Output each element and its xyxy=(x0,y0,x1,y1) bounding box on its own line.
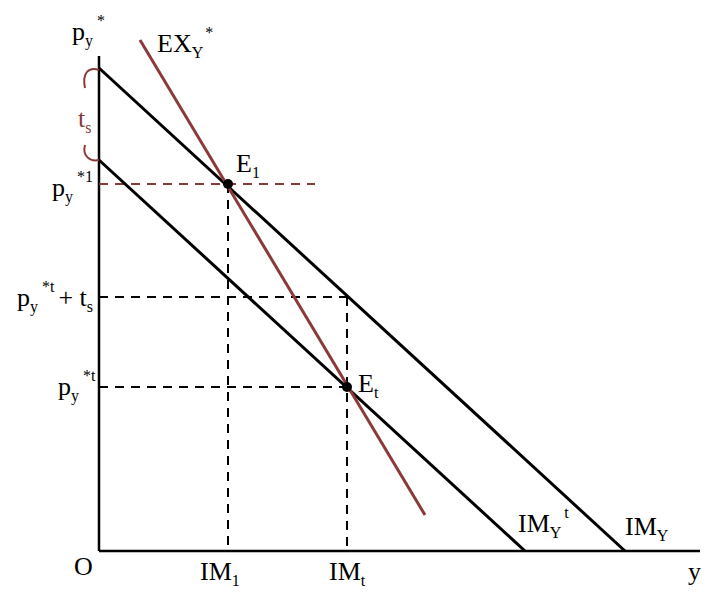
import-tariff-curve-label: IMYt xyxy=(518,504,569,541)
export-curve-exy xyxy=(140,40,425,515)
origin-label: O xyxy=(74,552,93,581)
tariff-label: ts xyxy=(78,104,91,136)
equilibrium-point-et xyxy=(342,382,352,392)
price-label-p1: py*1 xyxy=(52,168,93,206)
quantity-label-im1: IM1 xyxy=(200,557,240,589)
price-label-pt: py*t xyxy=(58,367,96,405)
e1-label: E1 xyxy=(236,149,260,181)
y-axis-label: py* xyxy=(72,12,105,50)
import-curve-imy-tariff xyxy=(99,160,525,551)
quantity-label-imt: IMt xyxy=(329,557,366,589)
export-curve-label: EXY* xyxy=(157,24,213,61)
import-curve-label: IMY xyxy=(625,512,669,544)
equilibrium-point-e1 xyxy=(223,179,233,189)
tariff-brace xyxy=(84,69,99,88)
trade-diagram: py* EXY* ts E1 Et py*1 py*t+ ts py*t O I… xyxy=(0,0,717,598)
tariff-brace-lower xyxy=(84,145,99,160)
x-axis-label: y xyxy=(688,557,701,586)
import-curve-imy xyxy=(99,68,625,551)
price-label-pt-plus-ts: py*t+ ts xyxy=(17,278,93,316)
et-label: Et xyxy=(358,369,379,401)
